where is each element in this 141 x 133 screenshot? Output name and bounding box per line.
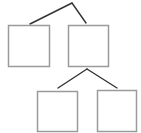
tree-diagram (0, 0, 141, 133)
connector-line-root-to-box-2 (72, 3, 86, 23)
node-box-1 (9, 26, 50, 67)
connector-line-root-to-box-1 (30, 3, 72, 24)
node-box-4 (98, 91, 137, 132)
connector-line-box-2-to-box-3 (58, 69, 87, 88)
node-box-2 (69, 26, 109, 67)
connector-line-box-2-to-box-4 (87, 69, 117, 88)
node-box-3 (38, 92, 78, 132)
